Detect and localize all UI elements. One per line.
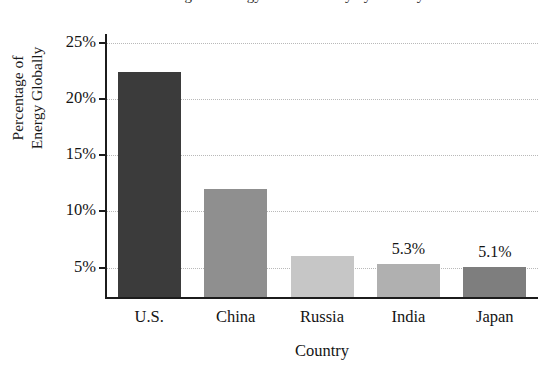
- bar-value-label: 5.3%: [358, 241, 458, 257]
- bar-u-s: [118, 72, 181, 298]
- bar-china: [204, 189, 267, 298]
- x-tick-label: Japan: [435, 308, 555, 326]
- x-axis-line: [105, 297, 538, 299]
- bar-russia: [291, 256, 354, 298]
- y-tick-label: 10%: [30, 202, 96, 218]
- y-tick-mark: [99, 267, 107, 269]
- y-tick-mark: [99, 42, 107, 44]
- y-tick-mark: [99, 210, 107, 212]
- y-axis-line: [105, 34, 107, 299]
- chart-title: Percentage of Energy Used Globally by Co…: [0, 0, 557, 3]
- y-tick-label: 20%: [30, 90, 96, 106]
- y-tick-label: 25%: [30, 34, 96, 50]
- x-axis-title: Country: [106, 341, 538, 361]
- bar-value-label: 5.1%: [445, 244, 545, 260]
- bar-chart-figure: Percentage of Energy Used Globally by Co…: [0, 0, 557, 376]
- y-tick-label: 15%: [30, 146, 96, 162]
- bar-japan: [463, 267, 526, 298]
- y-tick-label: 5%: [30, 259, 96, 275]
- plot-area: 5.3%5.1%: [106, 35, 538, 298]
- gridline: [106, 43, 538, 44]
- y-tick-mark: [99, 98, 107, 100]
- y-tick-mark: [99, 154, 107, 156]
- y-axis-title-line-1: Percentage of: [8, 0, 27, 198]
- bar-india: [377, 264, 440, 298]
